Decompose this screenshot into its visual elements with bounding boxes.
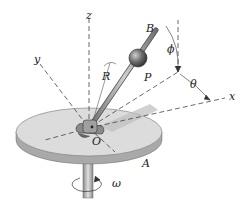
r-angle-arc: [104, 62, 116, 66]
label-a: A: [142, 158, 150, 169]
ball-p: [129, 49, 147, 67]
label-z: z: [86, 10, 92, 21]
label-p: P: [144, 72, 151, 83]
label-theta: θ: [190, 79, 197, 90]
label-o: O: [92, 136, 101, 147]
label-r: R: [102, 71, 110, 82]
disk: [16, 104, 162, 164]
label-b: B: [146, 23, 154, 34]
diagram-canvas: [0, 0, 248, 214]
label-x: x: [229, 91, 235, 102]
shaft: [83, 162, 93, 198]
label-y: y: [34, 54, 40, 65]
label-phi: ϕ: [167, 44, 175, 55]
label-omega: ω: [112, 178, 121, 189]
